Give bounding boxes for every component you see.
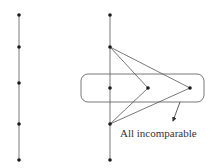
poset-diagram: All incomparable [0, 0, 216, 168]
chain-node [17, 81, 21, 85]
poset-node [108, 13, 112, 17]
antichain-node [108, 86, 112, 90]
poset-node [108, 122, 112, 126]
right-poset: All incomparable [81, 13, 204, 162]
edge [110, 47, 148, 88]
antichain-node [146, 86, 150, 90]
annotation-arrow [173, 102, 180, 121]
chain-node [17, 45, 21, 49]
chain-node [17, 13, 21, 17]
edge [110, 88, 190, 124]
chain-node [17, 158, 21, 162]
antichain-box [81, 74, 204, 102]
antichain-node [188, 86, 192, 90]
chain-node [17, 122, 21, 126]
left-chain [17, 13, 21, 162]
edge [110, 88, 148, 124]
poset-node [108, 158, 112, 162]
poset-node [108, 45, 112, 49]
edge [110, 47, 190, 88]
annotation-label: All incomparable [120, 127, 197, 139]
